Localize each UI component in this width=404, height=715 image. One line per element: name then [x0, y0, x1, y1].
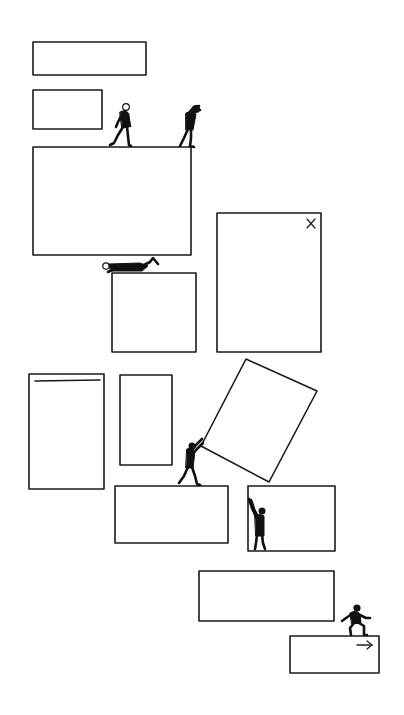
panel-small-box — [33, 90, 102, 129]
walking-person-figure — [110, 104, 131, 146]
climbing-person-leg-back — [350, 623, 354, 635]
climbing-person-arm-2 — [360, 615, 370, 618]
illustration-canvas — [0, 0, 404, 715]
crawling-person-leg — [142, 258, 158, 266]
panel-pushed-base — [115, 486, 228, 543]
panel-top-wide-bar — [33, 42, 146, 75]
climbing-person-leg-front — [359, 623, 367, 635]
pushing-person-leg-back — [179, 467, 188, 483]
climbing-person-head — [353, 604, 360, 611]
pushing-person-figure — [179, 439, 203, 485]
panel-tall-box — [217, 213, 321, 352]
holding-person-head — [259, 508, 266, 515]
crawling-person-arm — [108, 270, 112, 272]
walking-person-leg-back — [110, 127, 123, 145]
panel-large-platform — [33, 147, 191, 255]
header-line — [35, 380, 100, 381]
walking-person-head — [123, 104, 130, 111]
person-looking-leg-front — [190, 129, 194, 147]
panel-tilted[interactable] — [201, 359, 317, 482]
climbing-person-figure — [342, 604, 370, 635]
person-looking-leg-back — [180, 129, 188, 146]
crawling-person-figure — [103, 258, 158, 272]
panel-narrow-tall — [120, 375, 172, 465]
person-looking-figure — [180, 105, 200, 147]
panel-wide-lower — [199, 571, 334, 621]
panel-small-next[interactable] — [290, 636, 379, 673]
panel-lower-box — [112, 273, 196, 352]
pushing-person-leg-front — [192, 467, 200, 485]
crawling-person-head — [103, 263, 109, 269]
walking-person-leg-front — [127, 127, 131, 146]
panel-tall-left — [29, 374, 104, 489]
